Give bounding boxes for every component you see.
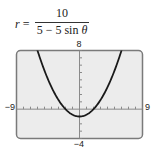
y-min-label: −4	[72, 139, 86, 148]
x-min-label: −9	[2, 102, 15, 112]
x-max-label: 9	[145, 102, 153, 112]
graph-window	[0, 0, 153, 148]
y-max-label: 8	[74, 39, 84, 49]
